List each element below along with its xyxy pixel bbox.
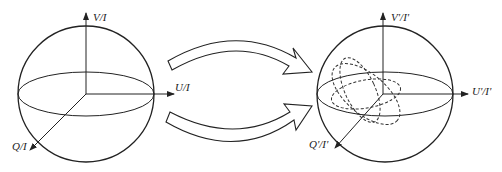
poincare-sphere-diagram: V/I U/I Q/I V'/I' U'/I' Q'/I' bbox=[0, 0, 502, 172]
left-u-label: U/I bbox=[175, 81, 191, 93]
transform-arrow-bottom bbox=[166, 104, 312, 142]
transform-arrow-top bbox=[168, 41, 312, 74]
right-v-label: V'/I' bbox=[391, 11, 410, 23]
right-q-label: Q'/I' bbox=[309, 138, 329, 150]
right-q-axis bbox=[335, 94, 383, 148]
right-u-label: U'/I' bbox=[472, 85, 492, 97]
left-q-label: Q/I bbox=[12, 140, 28, 152]
left-v-label: V/I bbox=[93, 11, 108, 23]
right-sphere: V'/I' U'/I' Q'/I' bbox=[309, 11, 492, 162]
left-sphere: V/I U/I Q/I bbox=[12, 11, 191, 162]
left-q-axis bbox=[30, 94, 86, 150]
